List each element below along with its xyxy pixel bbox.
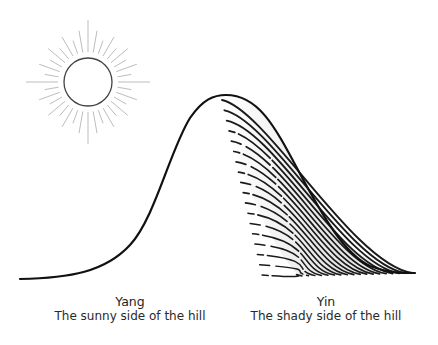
sun-ray	[93, 112, 97, 134]
sun-ray	[73, 41, 78, 54]
sun-ray	[107, 105, 116, 116]
yin-label: Yin The shady side of the hill	[236, 294, 416, 324]
sun-ray	[73, 110, 78, 123]
sun-ray	[98, 41, 103, 54]
sun-ray	[45, 74, 59, 76]
sun-ray	[39, 92, 60, 100]
sun-ray	[79, 112, 83, 134]
sun-ray	[107, 48, 116, 59]
sun-ray	[93, 31, 97, 53]
yang-label: Yang The sunny side of the hill	[40, 294, 220, 324]
sun-ray	[116, 64, 137, 72]
sun-ray	[50, 60, 62, 67]
yin-title: Yin	[236, 294, 416, 309]
sun-ray	[50, 97, 62, 104]
sun-ray	[114, 97, 126, 104]
yang-subtitle: The sunny side of the hill	[40, 309, 220, 324]
sun-ray	[98, 110, 103, 123]
sun-disc	[64, 58, 112, 106]
sun-ray	[45, 87, 59, 89]
sun-ray	[60, 48, 69, 59]
yang-title: Yang	[40, 294, 220, 309]
sun-ray	[118, 87, 132, 89]
sun-ray	[118, 74, 132, 76]
yin-subtitle: The shady side of the hill	[236, 309, 416, 324]
sun-icon	[26, 20, 150, 144]
sun-ray	[114, 60, 126, 67]
sun-ray	[60, 105, 69, 116]
shade-fill	[224, 95, 415, 276]
shade-line	[262, 274, 302, 276]
sun-ray	[39, 64, 60, 72]
sun-ray	[79, 31, 83, 53]
sun-ray	[116, 92, 137, 100]
